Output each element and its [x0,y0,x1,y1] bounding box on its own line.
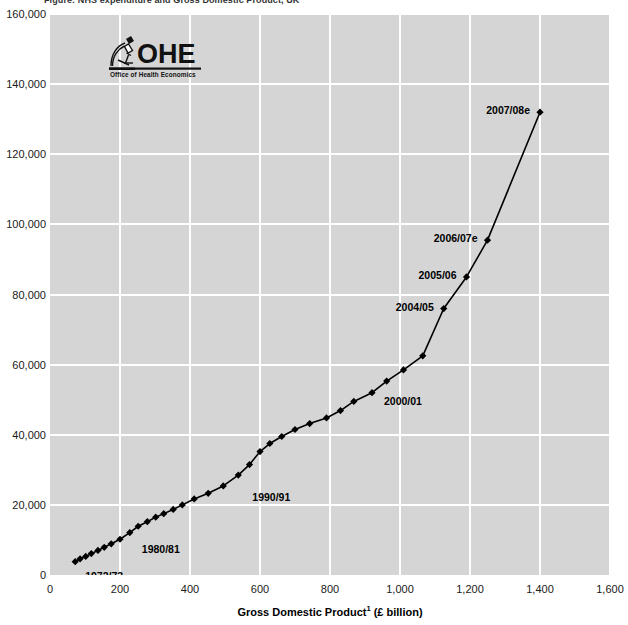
data-series-layer [50,14,610,575]
x-axis-tick: 0 [47,583,53,595]
data-point-label: 2007/08e [486,104,530,116]
y-axis-tick: 0 [0,569,46,581]
plot-area: 1972/731980/811990/912000/012004/052005/… [50,14,610,575]
microscope-icon [109,36,135,70]
data-point-marker[interactable] [170,506,177,513]
y-axis-tick: 100,000 [0,218,46,230]
ohe-logo-svg: OHE Office of Health Economics [104,32,208,80]
x-axis-title-main: Gross Domestic Product [237,606,366,618]
figure-title: Figure: NHS expenditure and Gross Domest… [44,0,444,5]
y-axis-tick: 60,000 [0,359,46,371]
x-axis-tick: 1,000 [386,583,414,595]
data-point-marker[interactable] [152,514,159,521]
data-point-marker[interactable] [205,490,212,497]
data-point-marker[interactable] [278,433,285,440]
ohe-strapline: Office of Health Economics [110,71,196,78]
data-point-label: 1990/91 [252,491,290,503]
series-line [75,112,540,562]
data-point-label: 1972/73 [85,570,123,575]
x-axis-tick: 600 [251,583,269,595]
data-point-marker[interactable] [306,420,313,427]
x-axis-tick: 1,200 [456,583,484,595]
x-axis-title-unit: (£ billion) [374,606,423,618]
data-point-marker[interactable] [191,495,198,502]
data-point-marker[interactable] [144,518,151,525]
data-point-marker[interactable] [108,540,115,547]
series-markers [72,109,544,566]
x-axis-tick: 200 [111,583,129,595]
ohe-wordmark: OHE [137,39,196,69]
y-axis-tick: 20,000 [0,499,46,511]
x-axis-tick: 800 [321,583,339,595]
data-point-label: 2000/01 [384,395,422,407]
y-axis-tick: 40,000 [0,429,46,441]
data-point-label: 2005/06 [419,269,457,281]
data-point-label: 2006/07e [434,232,478,244]
data-point-marker[interactable] [101,544,108,551]
data-point-label: 1980/81 [142,543,180,555]
x-axis-title-superscript: 1 [366,604,370,613]
y-axis-tick: 120,000 [0,148,46,160]
ohe-logo: OHE Office of Health Economics [104,32,208,80]
x-axis-tick-labels: 02004006008001,0001,2001,4001,600 [50,583,610,599]
y-axis-tick: 140,000 [0,78,46,90]
data-point-marker[interactable] [160,510,167,517]
x-axis-tick: 400 [181,583,199,595]
data-point-marker[interactable] [536,109,543,116]
x-axis-tick: 1,600 [596,583,624,595]
data-point-label: 2004/05 [396,301,434,313]
x-axis-tick: 1,400 [526,583,554,595]
data-point-marker[interactable] [94,547,101,554]
data-point-marker[interactable] [179,501,186,508]
chart-figure: Figure: NHS expenditure and Gross Domest… [0,0,628,625]
data-point-marker[interactable] [291,426,298,433]
data-point-marker[interactable] [484,237,491,244]
ohe-rule [109,68,201,70]
y-axis-tick: 80,000 [0,289,46,301]
y-axis-tick-labels: 020,00040,00060,00080,000100,000120,0001… [0,14,46,575]
x-axis-title: Gross Domestic Product1 (£ billion) [50,604,610,618]
data-point-marker[interactable] [323,414,330,421]
y-axis-tick: 160,000 [0,8,46,20]
